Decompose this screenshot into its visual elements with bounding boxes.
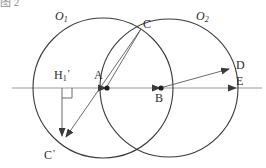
point-b-dot [158,85,163,90]
point-e-label-text: E [236,74,243,88]
point-c-prime-label: C' [44,148,55,161]
point-a-label: A [94,69,103,81]
point-a-dot [104,85,109,90]
circle-o2-label: O2 [196,10,209,24]
circle-o2-label-text: O [196,9,205,23]
geometry-figure: 图 2 [0,0,266,168]
point-c-prime-mark: ' [53,147,55,159]
segment-c-to-cprime [66,29,141,137]
point-c-label: C [143,18,151,30]
point-e-label: E [236,75,243,87]
point-h1-label-text: H [54,68,63,82]
right-angle-mark-h1 [62,88,72,98]
point-c-label-text: C [143,17,151,31]
circle-o1-label-sub: 1 [64,15,68,24]
point-h1-label-sub: 1 [63,74,67,83]
geometry-canvas [0,0,266,168]
point-d-label-text: D [236,58,245,72]
circle-o2-label-sub: 2 [205,15,209,24]
point-b-label-text: B [155,91,163,105]
circle-o1-label-text: O [55,9,64,23]
point-a-label-text: A [94,68,103,82]
point-c-prime-label-text: C [44,148,52,162]
segment-a-to-c [106,29,141,88]
point-b-label: B [155,92,163,104]
point-d-label: D [236,59,245,71]
segment-b-to-d [160,69,229,88]
point-h1-prime-label: H1' [54,68,70,83]
point-h1-prime-mark: ' [68,67,70,79]
circle-o1-label: O1 [55,10,68,24]
